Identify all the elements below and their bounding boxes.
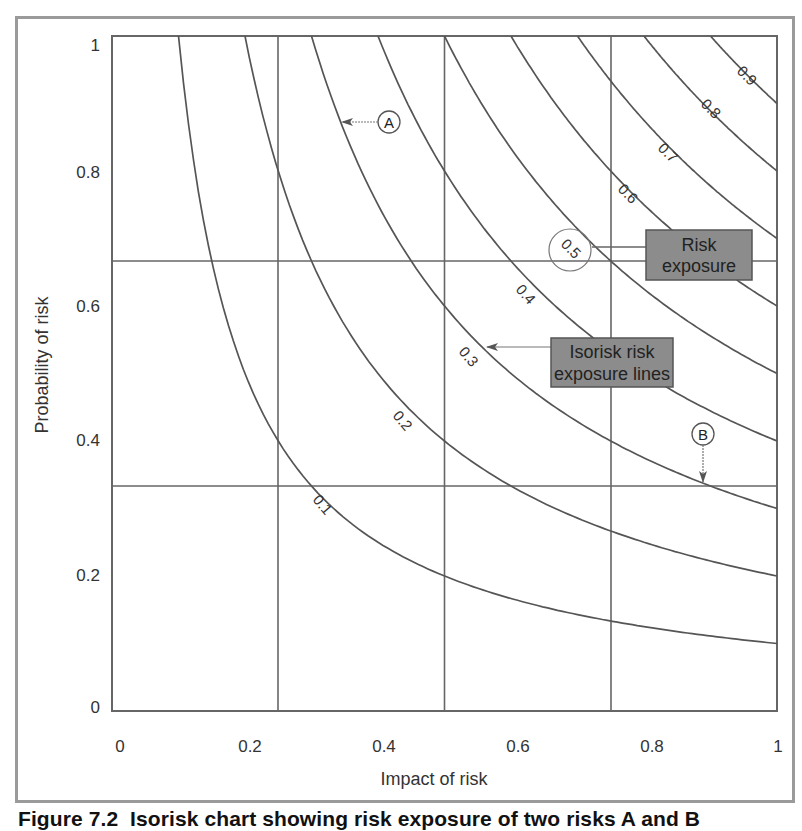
y-tick-0: 0	[91, 698, 100, 717]
risk-exposure-line1: Risk	[682, 235, 718, 255]
risk-exposure-line2: exposure	[662, 256, 736, 276]
point-b-label: B	[698, 426, 708, 443]
x-tick-0.6: 0.6	[506, 737, 530, 756]
y-tick-1: 1	[91, 36, 100, 55]
x-tick-0.8: 0.8	[640, 737, 664, 756]
isorisk-line1: Isorisk risk	[570, 342, 656, 362]
x-tick-0.2: 0.2	[238, 737, 262, 756]
isorisk-line2: exposure lines	[554, 364, 670, 384]
x-tick-0: 0	[115, 737, 124, 756]
figure-number: Figure 7.2	[18, 807, 118, 830]
y-tick-0.8: 0.8	[76, 163, 100, 182]
figure-caption-text: Isorisk chart showing risk exposure of t…	[130, 807, 700, 830]
x-axis-ticks: 0 0.2 0.4 0.6 0.8 1	[115, 737, 782, 756]
y-tick-0.4: 0.4	[76, 431, 100, 450]
x-axis-label: Impact of risk	[380, 769, 488, 789]
y-axis-label: Probability of risk	[32, 295, 52, 433]
figure-caption: Figure 7.2 Isorisk chart showing risk ex…	[18, 807, 700, 831]
point-a-label: A	[384, 114, 394, 131]
x-tick-1: 1	[773, 737, 782, 756]
x-tick-0.4: 0.4	[372, 737, 396, 756]
y-tick-0.2: 0.2	[76, 566, 100, 585]
y-axis-ticks: 1 0.8 0.6 0.4 0.2 0	[76, 36, 100, 717]
y-tick-0.6: 0.6	[76, 297, 100, 316]
plot-area	[112, 36, 777, 711]
